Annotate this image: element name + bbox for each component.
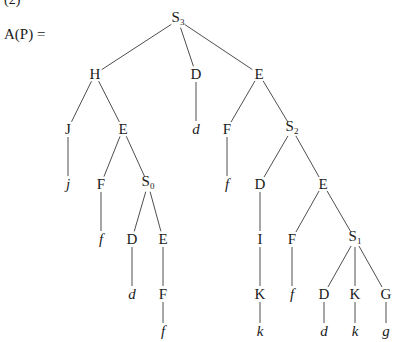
nonterminal-node: E <box>158 232 167 247</box>
tree-edge <box>231 81 255 122</box>
node-subscript: 3 <box>180 17 185 27</box>
terminal-node: g <box>382 324 390 339</box>
nonterminal-node: G <box>381 287 392 302</box>
terminal-node: f <box>225 177 229 192</box>
nonterminal-node: K <box>350 287 361 302</box>
nonterminal-node: F <box>288 232 296 247</box>
node-subscript: 2 <box>294 126 299 136</box>
nonterminal-node: S0 <box>142 174 155 194</box>
tree-edge <box>296 136 319 177</box>
tree-edge <box>327 191 351 232</box>
nonterminal-node: S1 <box>349 229 362 249</box>
nonterminal-node: J <box>65 122 71 137</box>
terminal-node: k <box>352 324 359 339</box>
tree-edge <box>296 191 319 232</box>
tree-edges <box>0 0 396 342</box>
tree-edge <box>102 24 172 69</box>
terminal-node: f <box>99 232 103 247</box>
terminal-node: d <box>192 122 200 137</box>
terminal-node: j <box>66 177 70 192</box>
tree-edge <box>181 28 194 67</box>
nonterminal-node: K <box>255 287 266 302</box>
tree-edge <box>263 81 288 122</box>
nonterminal-node: D <box>191 67 202 82</box>
terminal-node: f <box>161 324 165 339</box>
nonterminal-node: D <box>319 287 330 302</box>
nonterminal-node: E <box>318 177 327 192</box>
tree-edge <box>150 192 161 232</box>
terminal-node: f <box>290 287 294 302</box>
nonterminal-node: F <box>159 287 167 302</box>
nonterminal-node: D <box>127 232 138 247</box>
tree-edge <box>328 246 351 287</box>
terminal-node: d <box>320 324 328 339</box>
terminal-node: k <box>257 324 264 339</box>
nonterminal-node: H <box>90 67 101 82</box>
nonterminal-node: S2 <box>286 119 299 139</box>
node-subscript: 1 <box>357 236 362 246</box>
nonterminal-node: D <box>255 177 266 192</box>
tree-edge <box>72 81 92 122</box>
tree-edge <box>185 24 253 69</box>
parse-tree-diagram: (2) A(P) = S3HDEJEdFS2jFS0fDEfDEIFS1dFKf… <box>0 0 396 342</box>
tree-edge <box>126 136 144 176</box>
nonterminal-node: S3 <box>172 10 185 30</box>
tree-edge <box>264 136 288 177</box>
tree-edge <box>104 136 120 176</box>
nonterminal-node: I <box>258 232 263 247</box>
nonterminal-node: E <box>118 122 127 137</box>
tree-edge <box>134 192 146 232</box>
nonterminal-node: E <box>254 67 263 82</box>
nonterminal-node: F <box>97 177 105 192</box>
terminal-node: d <box>128 287 136 302</box>
tree-edge <box>359 246 382 287</box>
nonterminal-node: F <box>223 122 231 137</box>
node-subscript: 0 <box>150 181 155 191</box>
tree-edge <box>99 81 120 122</box>
